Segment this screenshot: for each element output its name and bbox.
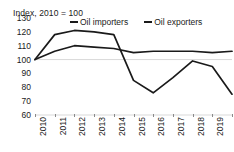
- x-tick-label: 2019: [216, 117, 225, 136]
- x-tick-mark: [55, 114, 56, 117]
- x-tick-mark: [35, 114, 36, 117]
- x-tick-mark: [193, 114, 194, 117]
- x-tick-mark: [74, 114, 75, 117]
- series-lines: [35, 30, 232, 94]
- y-tick-label: 110: [17, 41, 31, 50]
- x-tick-label: 2011: [59, 117, 68, 135]
- x-tick-label: 2014: [118, 117, 127, 136]
- x-tick-mark: [173, 114, 174, 117]
- plot-svg: [35, 18, 232, 115]
- series-line-oil-exporters: [35, 30, 232, 94]
- plot-area: [35, 18, 232, 115]
- x-tick-mark: [153, 114, 154, 117]
- y-tick-label: 60: [22, 111, 31, 120]
- x-axis: 2010201120122013201420152016201720182019…: [35, 117, 232, 151]
- y-tick-label: 100: [17, 55, 31, 64]
- series-line-oil-importers: [35, 46, 232, 60]
- x-tick-label: 2015: [138, 117, 147, 136]
- x-tick-mark: [134, 114, 135, 117]
- x-tick-label: 2017: [177, 117, 186, 136]
- x-tick-mark: [232, 114, 233, 117]
- x-tick-label: 2016: [157, 117, 166, 136]
- y-tick-label: 90: [22, 69, 31, 78]
- x-tick-label: 2013: [98, 117, 107, 136]
- y-tick-label: 70: [22, 97, 31, 106]
- y-tick-label: 130: [17, 14, 31, 23]
- chart-screenshot: Index, 2010 = 100 Oil importers Oil expo…: [0, 0, 234, 152]
- y-tick-label: 80: [22, 83, 31, 92]
- x-tick-label: 2012: [78, 117, 87, 136]
- y-tick-label: 120: [17, 28, 31, 37]
- x-tick-label: 2018: [197, 117, 206, 136]
- gridlines: [35, 60, 232, 115]
- y-axis: 13012011010090807060: [0, 18, 33, 115]
- x-tick-mark: [94, 114, 95, 117]
- x-tick-label: 2010: [39, 117, 48, 136]
- x-tick-mark: [212, 114, 213, 117]
- x-tick-mark: [114, 114, 115, 117]
